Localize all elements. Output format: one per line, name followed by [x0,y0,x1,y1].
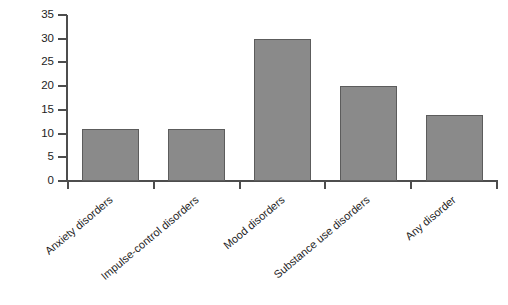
y-axis-tick-label: 5 [28,151,54,162]
y-axis-tick-mark [58,61,67,63]
y-axis-tick-label: 35 [28,9,54,20]
y-axis-tick-label-wrap: 0 [26,175,54,187]
y-axis-tick-label: 20 [28,80,54,91]
y-axis-tick-label-wrap: 35 [26,9,54,21]
y-axis-tick-mark [58,156,67,158]
y-axis-tick-label: 15 [28,104,54,115]
bar [254,39,311,181]
x-axis-tick-mark [239,181,241,189]
bar [82,129,139,181]
y-axis-tick-mark [58,38,67,40]
y-axis-tick-label-wrap: 15 [26,104,54,116]
y-axis-tick-label-wrap: 30 [26,33,54,45]
y-axis-tick-mark [58,109,67,111]
x-axis-tick-mark [324,181,326,189]
bar-chart: Median age of onset 05101520253035 Anxie… [0,0,508,305]
y-axis-tick-label: 25 [28,56,54,67]
x-axis-tick-mark [496,181,498,189]
y-axis-tick-mark [58,133,67,135]
y-axis-tick-label-wrap: 20 [26,80,54,92]
y-axis-tick-label: 30 [28,33,54,44]
y-axis-tick-mark [58,85,67,87]
bar [340,86,397,181]
y-axis-tick-mark [58,180,67,182]
bar [168,129,225,181]
y-axis-tick-label-wrap: 25 [26,56,54,68]
x-axis-tick-mark [67,181,69,189]
y-axis-tick-mark [58,14,67,16]
x-axis-tick-mark [410,181,412,189]
x-axis-tick-mark [153,181,155,189]
bar [426,115,483,181]
y-axis-tick-label-wrap: 10 [26,128,54,140]
y-axis-tick-label: 0 [28,175,54,186]
y-axis-tick-label-wrap: 5 [26,151,54,163]
y-axis-tick-label: 10 [28,128,54,139]
